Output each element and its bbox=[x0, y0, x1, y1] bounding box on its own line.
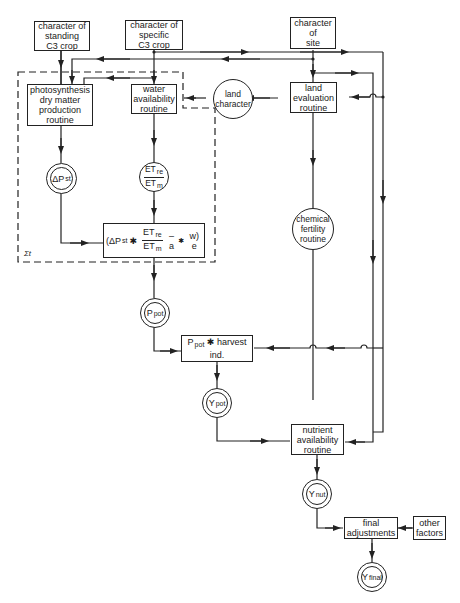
final-adjustments-box: final adjustments bbox=[344, 517, 398, 539]
delta-pst-node: ΔPst bbox=[46, 163, 77, 194]
specific-crop-box: character of specific C3 crop bbox=[125, 20, 183, 50]
nutrient-availability-box: nutrient availability routine bbox=[291, 424, 344, 455]
chemical-fertility-circle: chemical fertility routine bbox=[292, 208, 334, 250]
other-factors-label: other factors bbox=[416, 518, 443, 538]
formula-tail-sub: ✱ bbox=[178, 236, 184, 246]
final-adjustments-label: final adjustments bbox=[347, 518, 396, 538]
formula-open-sub: st bbox=[122, 236, 127, 246]
loop-sum-label: Σt bbox=[24, 249, 31, 258]
nutrient-availability-label: nutrient availability routine bbox=[297, 425, 339, 455]
photosynthesis-routine-label: photosynthesis dry matter production rou… bbox=[30, 85, 90, 125]
water-availability-label: water availability routine bbox=[133, 84, 175, 114]
ppot-main: P bbox=[147, 308, 153, 318]
specific-crop-label: character of specific C3 crop bbox=[130, 20, 178, 50]
ynut-sub: nut bbox=[316, 491, 326, 498]
et-ratio-circle: ETre ETm bbox=[139, 162, 169, 192]
et-ratio-fraction: ETre ETm bbox=[144, 164, 164, 191]
photosynthesis-routine-box: photosynthesis dry matter production rou… bbox=[27, 84, 93, 126]
formula-num-sub: re bbox=[156, 231, 162, 238]
formula-den-sub: m bbox=[156, 245, 162, 252]
yield-formula-box: (ΔPst ✱ ETre ETm – a✱ w) e bbox=[103, 223, 205, 258]
yfinal-node: Yfinal bbox=[357, 562, 387, 592]
land-evaluation-label: land evaluation routine bbox=[293, 83, 334, 113]
formula-den: ET bbox=[143, 241, 155, 251]
standing-crop-label: character of standing C3 crop bbox=[38, 21, 86, 51]
harvest-index-box: Ppot ✱ harvest ind. bbox=[181, 335, 253, 362]
ynut-node: Ynut bbox=[302, 479, 332, 509]
harvest-rest: ✱ harvest bbox=[204, 337, 246, 347]
ypot-node: Ypot bbox=[202, 388, 232, 418]
chemical-fertility-label: chemical fertility routine bbox=[296, 214, 330, 244]
standing-crop-box: character of standing C3 crop bbox=[34, 21, 90, 51]
ypot-sub: pot bbox=[216, 400, 226, 407]
harvest-line2: ind. bbox=[210, 350, 225, 360]
formula-tail: – a bbox=[166, 231, 177, 251]
ypot-main: Y bbox=[209, 398, 215, 408]
delta-pst-main: ΔP bbox=[52, 174, 64, 184]
land-character-label: land character bbox=[215, 89, 250, 109]
formula-open: (ΔP bbox=[106, 236, 121, 246]
other-factors-box: other factors bbox=[413, 516, 446, 540]
yfinal-sub: final bbox=[369, 574, 382, 581]
yfinal-main: Y bbox=[362, 572, 368, 582]
ppot-node: Ppot bbox=[140, 298, 170, 328]
et-den-sub: m bbox=[157, 182, 163, 189]
et-num: ET bbox=[145, 164, 156, 174]
land-evaluation-box: land evaluation routine bbox=[290, 82, 337, 113]
land-character-circle: land character bbox=[213, 79, 253, 119]
harvest-sub: pot bbox=[195, 341, 205, 348]
site-box: character of site bbox=[290, 17, 336, 49]
formula-tail2: w) e bbox=[187, 231, 202, 251]
ynut-main: Y bbox=[309, 489, 315, 499]
delta-pst-sub: st bbox=[65, 175, 70, 182]
et-num-sub: re bbox=[157, 168, 163, 175]
water-availability-box: water availability routine bbox=[131, 84, 177, 114]
formula-op: ✱ bbox=[129, 236, 137, 246]
site-label: character of site bbox=[294, 18, 332, 48]
harvest-main: P bbox=[188, 337, 194, 347]
formula-num: ET bbox=[143, 227, 155, 237]
ppot-sub: pot bbox=[154, 310, 164, 317]
et-den: ET bbox=[145, 178, 156, 188]
formula-fraction: ETre ETm bbox=[142, 227, 163, 254]
